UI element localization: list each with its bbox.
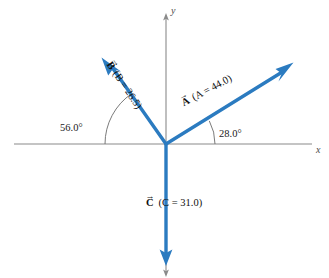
vector-diagram: y x 28.0° 56.0° A→(A = 44.0) B→(B = 26.5…: [0, 0, 329, 278]
x-axis-label: x: [316, 145, 320, 155]
vector-c-label: C→(C = 31.0): [146, 198, 206, 209]
y-axis-label: y: [171, 6, 175, 16]
vector-c-magnitude-text: (C = 31.0): [159, 197, 203, 208]
angle-label-56: 56.0°: [60, 123, 83, 134]
angle-arc-28: [209, 121, 215, 144]
vector-a-arrowhead: [276, 63, 294, 82]
vector-c-arrow-accent: →: [146, 191, 155, 201]
angle-label-28: 28.0°: [219, 129, 242, 140]
diagram-canvas: [0, 0, 329, 278]
